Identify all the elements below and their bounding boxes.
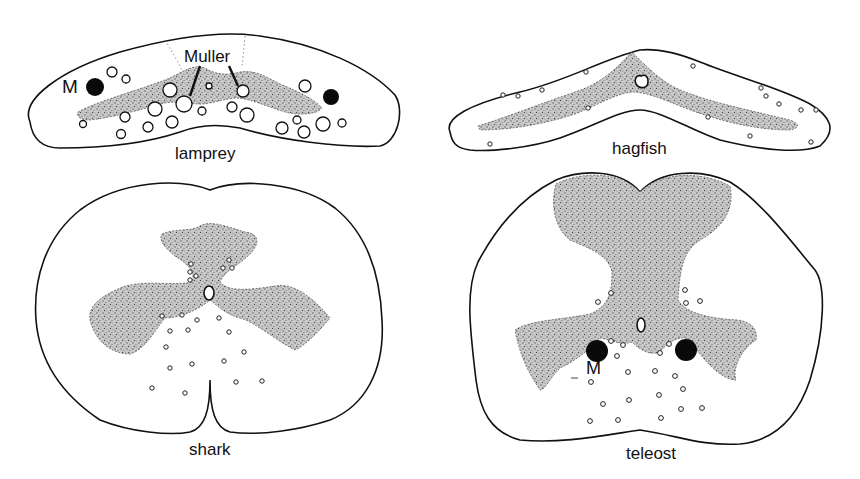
lamprey-mauthner-label: M	[62, 76, 78, 98]
panel-shark	[36, 183, 383, 433]
diagram-canvas	[0, 0, 860, 479]
lamprey-mauthner-axon-right	[323, 89, 339, 105]
shark-cord-outline	[36, 183, 383, 433]
teleost-mauthner-axon-right	[675, 339, 697, 361]
teleost-caption: teleost	[626, 444, 676, 464]
teleost-mauthner-label: M	[586, 358, 601, 379]
shark-central-canal	[204, 286, 214, 300]
panel-hagfish	[449, 50, 830, 151]
shark-caption: shark	[189, 440, 231, 460]
lamprey-muller-label: Muller	[184, 47, 230, 67]
lamprey-mauthner-axon-left	[86, 78, 104, 96]
figure-spinal-cord-cross-sections: M Muller lamprey hagfish shark M teleost	[0, 0, 860, 479]
panel-teleost	[470, 173, 823, 444]
lamprey-caption: lamprey	[175, 144, 235, 164]
hagfish-caption: hagfish	[612, 139, 667, 159]
teleost-central-canal	[637, 318, 645, 332]
hagfish-central-canal	[635, 75, 648, 87]
